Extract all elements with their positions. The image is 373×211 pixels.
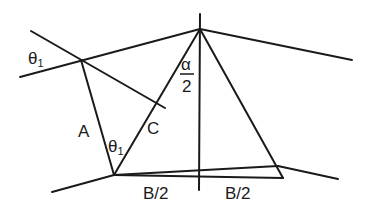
base-line-upper (114, 166, 278, 175)
theta-outer-label: θ1 (28, 49, 44, 69)
side-c-line (114, 29, 200, 175)
right-upper-line (200, 29, 352, 60)
vertical-axis (199, 14, 200, 190)
bottom-right-edge (278, 166, 338, 179)
side-a-line (81, 60, 114, 175)
half-b-right-label: B/2 (225, 184, 251, 203)
theta-inner-label: θ1 (108, 137, 124, 157)
left-upper-line (20, 29, 200, 77)
alpha-numerator: α (181, 55, 191, 74)
geometry-diagram: θ1 A C θ1 α 2 B/2 B/2 (0, 0, 373, 211)
right-slant-line (200, 29, 283, 178)
side-a-label: A (78, 122, 90, 141)
half-b-left-label: B/2 (143, 184, 169, 203)
bottom-left-edge (52, 175, 114, 192)
alpha-denominator: 2 (182, 77, 191, 96)
side-c-label: C (147, 119, 159, 138)
